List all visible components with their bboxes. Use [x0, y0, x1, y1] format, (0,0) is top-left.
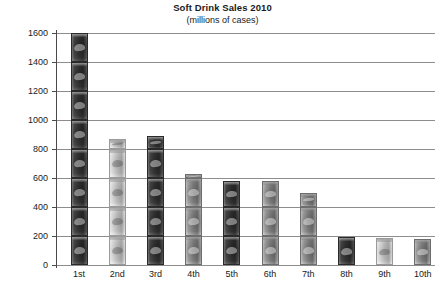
- soda-can-icon: [109, 207, 126, 236]
- soda-can-icon: [223, 181, 240, 207]
- y-axis-tick-label: 1000: [8, 116, 48, 125]
- chart-title-block: Soft Drink Sales 2010 (millions of cases…: [0, 2, 445, 26]
- soda-can-icon: [185, 178, 202, 207]
- soda-can-icon: [147, 136, 164, 149]
- bar: [262, 181, 279, 265]
- bar: [376, 238, 393, 265]
- soda-can-icon: [109, 139, 126, 149]
- soda-can-icon: [185, 207, 202, 236]
- soft-drink-sales-chart: Soft Drink Sales 2010 (millions of cases…: [0, 0, 445, 300]
- soda-can-icon: [71, 207, 88, 236]
- soda-can-icon: [147, 236, 164, 265]
- soda-can-icon: [71, 33, 88, 62]
- gridline: [57, 265, 435, 266]
- soda-can-icon: [262, 236, 279, 265]
- soda-can-icon: [71, 236, 88, 265]
- soda-can-icon: [71, 120, 88, 149]
- gridline: [57, 62, 435, 63]
- gridline: [57, 120, 435, 121]
- soda-can-icon: [300, 207, 317, 236]
- soda-can-icon: [109, 149, 126, 178]
- bar: [185, 174, 202, 265]
- soda-can-icon: [262, 207, 279, 236]
- x-axis-tick-label: 10th: [404, 269, 442, 279]
- soda-can-icon: [71, 178, 88, 207]
- x-axis-tick-label: 9th: [366, 269, 404, 279]
- soda-can-icon: [300, 193, 317, 208]
- x-axis-tick-label: 1st: [60, 269, 98, 279]
- y-axis-tick-label: 800: [8, 145, 48, 154]
- y-axis-tick-label: 200: [8, 232, 48, 241]
- x-axis-tick-label: 3rd: [136, 269, 174, 279]
- soda-can-icon: [71, 149, 88, 178]
- bar: [223, 181, 240, 265]
- x-axis-tick-label: 2nd: [98, 269, 136, 279]
- bar: [414, 239, 431, 265]
- chart-subtitle: (millions of cases): [0, 14, 445, 26]
- soda-can-icon: [147, 149, 164, 178]
- soda-can-icon: [376, 238, 393, 265]
- x-axis-tick-label: 5th: [213, 269, 251, 279]
- soda-can-icon: [147, 178, 164, 207]
- x-axis-tick-label: 7th: [289, 269, 327, 279]
- soda-can-icon: [223, 236, 240, 265]
- bar: [71, 33, 88, 265]
- y-axis-tick-label: 600: [8, 174, 48, 183]
- page-title: Soft Drink Sales 2010: [0, 2, 445, 14]
- soda-can-icon: [262, 181, 279, 207]
- y-axis-tick-label: 400: [8, 203, 48, 212]
- soda-can-icon: [185, 174, 202, 178]
- gridline: [57, 33, 435, 34]
- soda-can-icon: [223, 207, 240, 236]
- y-axis-tick-label: 1600: [8, 29, 48, 38]
- soda-can-icon: [338, 237, 355, 265]
- soda-can-icon: [300, 236, 317, 265]
- y-axis-tick-label: 0: [8, 261, 48, 270]
- y-axis-tick-label: 1400: [8, 58, 48, 67]
- bar: [338, 237, 355, 265]
- bar: [147, 136, 164, 265]
- x-axis-tick-label: 4th: [175, 269, 213, 279]
- soda-can-icon: [185, 236, 202, 265]
- soda-can-icon: [147, 207, 164, 236]
- x-axis-tick-label: 6th: [251, 269, 289, 279]
- soda-can-icon: [109, 178, 126, 207]
- x-axis-tick-label: 8th: [327, 269, 365, 279]
- plot-area: [57, 33, 435, 265]
- soda-can-icon: [71, 91, 88, 120]
- bar: [109, 139, 126, 265]
- y-axis-tick-label: 1200: [8, 87, 48, 96]
- soda-can-icon: [109, 236, 126, 265]
- soda-can-icon: [414, 239, 431, 265]
- bar: [300, 193, 317, 266]
- gridline: [57, 91, 435, 92]
- soda-can-icon: [71, 62, 88, 91]
